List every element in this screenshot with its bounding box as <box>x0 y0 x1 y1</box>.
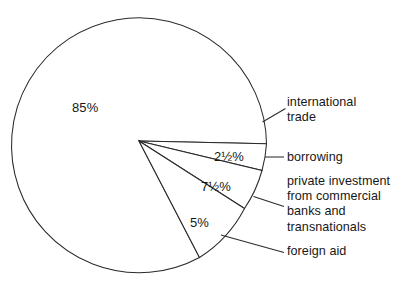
pie-value-label-borrowing: 2½% <box>214 150 244 163</box>
callout-label-borrowing: borrowing <box>287 150 343 165</box>
leader-line-foreign-aid <box>221 235 284 253</box>
pie-value-borrowing-fraction: ½ <box>221 149 232 164</box>
callout-label-foreign-aid: foreign aid <box>287 244 346 259</box>
pie-value-private-investment-percent-sign: % <box>219 179 231 194</box>
leader-line-private-investment <box>254 197 285 207</box>
pie-value-label-international-trade: 85% <box>72 101 98 114</box>
pie-chart-figure: 85% 2½% 7½% 5% international trade borro… <box>0 0 418 283</box>
pie-value-label-foreign-aid: 5% <box>190 216 209 229</box>
leader-line-international-trade <box>263 109 286 123</box>
pie-value-private-investment-fraction: ½ <box>208 179 219 194</box>
pie-value-borrowing-percent-sign: % <box>232 149 244 164</box>
callout-label-international-trade: international trade <box>287 95 356 125</box>
pie-value-label-private-investment: 7½% <box>201 180 231 193</box>
pie-chart-graphic <box>0 0 418 283</box>
callout-label-private-investment: private investment from commercial banks… <box>287 174 390 235</box>
